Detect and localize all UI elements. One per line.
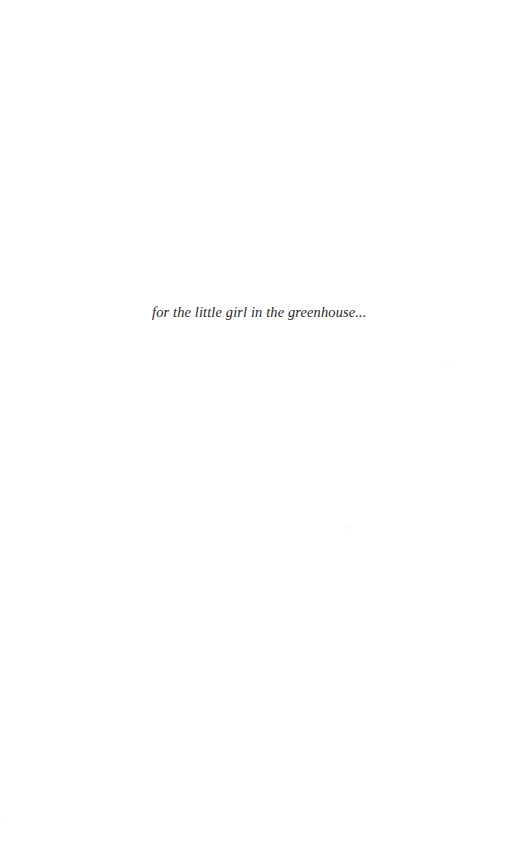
dedication-text: for the little girl in the greenhouse... xyxy=(152,302,452,322)
dedication-page: for the little girl in the greenhouse... xyxy=(0,0,532,866)
scan-speckle-upper-right xyxy=(447,361,454,365)
scan-speckle-center xyxy=(346,525,351,529)
scan-speckle-lower-left xyxy=(1,820,5,823)
